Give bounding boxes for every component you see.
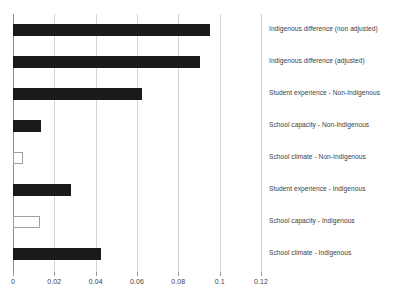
bar	[13, 88, 142, 100]
x-tick-label: 0.04	[89, 278, 103, 285]
bar-row	[13, 206, 261, 238]
category-label: Indigenous difference (adjusted)	[269, 57, 365, 64]
category-label: School climate - Indigenous	[269, 249, 351, 256]
x-tick-label: 0.06	[130, 278, 144, 285]
bar-row	[13, 238, 261, 270]
x-tick-label: 0	[11, 278, 15, 285]
tick-mark	[220, 272, 221, 276]
tick-mark	[96, 272, 97, 276]
x-tick-label: 0.02	[47, 278, 61, 285]
bar	[13, 24, 210, 36]
category-label: School capacity - Non-Indigenous	[269, 121, 369, 128]
bar	[13, 184, 71, 196]
tick-mark	[13, 272, 14, 276]
tick-mark	[178, 272, 179, 276]
tick-mark	[54, 272, 55, 276]
x-tick-label: 0.1	[215, 278, 225, 285]
bar	[13, 248, 101, 260]
category-label: Student experience - Indigenous	[269, 185, 366, 192]
bar	[13, 56, 200, 68]
gridline	[261, 14, 262, 272]
bar-chart: 00.020.040.060.080.10.12 Indigenous diff…	[0, 0, 408, 303]
bar	[13, 216, 40, 228]
bar-row	[13, 14, 261, 46]
bar-row	[13, 174, 261, 206]
bar-row	[13, 78, 261, 110]
bar-row	[13, 142, 261, 174]
category-label: School capacity - Indigenous	[269, 217, 355, 224]
bar-row	[13, 110, 261, 142]
x-tick-label: 0.12	[254, 278, 268, 285]
tick-mark	[261, 272, 262, 276]
category-label: Indigenous difference (non adjusted)	[269, 25, 378, 32]
category-label: School climate - Non-Indigenous	[269, 153, 366, 160]
bar-row	[13, 46, 261, 78]
category-label: Student experience - Non-Indigenous	[269, 89, 380, 96]
x-tick-label: 0.08	[171, 278, 185, 285]
tick-mark	[137, 272, 138, 276]
bar	[13, 152, 23, 164]
bar	[13, 120, 41, 132]
